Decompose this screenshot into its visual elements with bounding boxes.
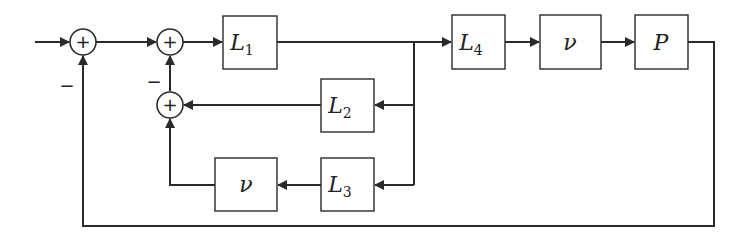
outer-feedback-path: [83, 42, 714, 226]
label-L1: L1: [229, 30, 254, 58]
label-L2: L2: [327, 93, 352, 121]
sum1-plus: +: [75, 31, 90, 52]
label-nu-feedback: ν: [239, 172, 252, 197]
label-L3: L3: [327, 172, 352, 200]
block-diagram: + + + − − L1 L4 ν P L2 L3 ν: [0, 0, 739, 242]
sum1-minus: −: [59, 75, 74, 96]
sum3-plus: +: [162, 94, 177, 115]
sum2-plus: +: [162, 31, 177, 52]
label-nu-forward: ν: [563, 30, 576, 55]
nu-to-sum3-path: [170, 119, 215, 185]
label-L4: L4: [458, 30, 483, 58]
sum2-minus: −: [146, 71, 161, 92]
label-P: P: [653, 30, 670, 55]
